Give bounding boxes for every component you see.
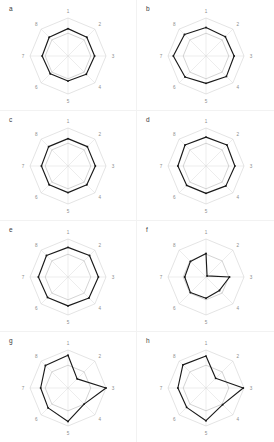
radar-data-point-6: [184, 76, 186, 78]
axis-label-8: 8: [35, 243, 38, 248]
axis-label-6: 6: [172, 85, 175, 90]
axis-label-3: 3: [112, 164, 115, 169]
axis-label-5: 5: [67, 319, 70, 324]
radar-data-point-7: [37, 276, 39, 278]
radar-axis-spoke-8: [179, 139, 206, 166]
axis-label-2: 2: [236, 22, 239, 27]
radar-data-point-2: [224, 35, 226, 37]
axis-label-4: 4: [236, 196, 239, 201]
radar-data-point-6: [47, 407, 49, 409]
radar-data-point-7: [176, 165, 178, 167]
radar-data-point-3: [228, 276, 230, 278]
radar-data-point-1: [67, 138, 69, 140]
radar-data-point-1: [205, 136, 207, 138]
radar-series-data-h: [177, 356, 242, 421]
axis-label-5: 5: [204, 319, 207, 324]
radar-data-point-5: [67, 80, 69, 82]
radar-panel-c: c12345678: [0, 111, 137, 222]
radar-data-point-7: [183, 276, 185, 278]
axis-label-6: 6: [35, 85, 38, 90]
axis-label-1: 1: [204, 8, 207, 13]
radar-data-point-4: [86, 184, 88, 186]
axis-label-2: 2: [236, 354, 239, 359]
axis-label-6: 6: [172, 417, 175, 422]
axis-label-3: 3: [112, 53, 115, 58]
radar-data-point-5: [67, 192, 69, 194]
axis-label-7: 7: [159, 385, 162, 390]
radar-data-point-5: [67, 420, 69, 422]
radar-data-point-7: [172, 55, 174, 57]
radar-data-point-3: [105, 387, 107, 389]
radar-data-point-7: [41, 55, 43, 57]
radar-axis-spoke-2: [206, 250, 233, 277]
radar-data-point-3: [242, 387, 244, 389]
radar-axis-spoke-8: [179, 250, 206, 277]
axis-label-4: 4: [236, 306, 239, 311]
radar-axis-spoke-4: [68, 56, 95, 83]
axis-label-3: 3: [249, 274, 252, 279]
axis-label-4: 4: [236, 85, 239, 90]
radar-plot-d: 12345678: [147, 113, 265, 217]
axis-label-8: 8: [172, 132, 175, 137]
axis-label-3: 3: [249, 53, 252, 58]
radar-data-point-8: [184, 144, 186, 146]
axis-label-8: 8: [172, 22, 175, 27]
axis-label-7: 7: [22, 274, 25, 279]
radar-data-point-6: [185, 406, 187, 408]
radar-data-point-3: [233, 55, 235, 57]
axis-label-6: 6: [35, 306, 38, 311]
axis-label-4: 4: [236, 417, 239, 422]
axis-label-6: 6: [172, 196, 175, 201]
axis-label-7: 7: [159, 274, 162, 279]
axis-label-1: 1: [67, 340, 70, 345]
axis-label-4: 4: [99, 417, 102, 422]
radar-panel-e: e12345678: [0, 221, 137, 332]
radar-data-point-2: [86, 146, 88, 148]
axis-label-5: 5: [204, 98, 207, 103]
axis-label-6: 6: [35, 196, 38, 201]
radar-data-point-5: [67, 305, 69, 307]
axis-label-2: 2: [236, 243, 239, 248]
axis-label-8: 8: [172, 243, 175, 248]
axis-label-5: 5: [204, 430, 207, 435]
axis-label-2: 2: [99, 354, 102, 359]
axis-label-1: 1: [67, 8, 70, 13]
radar-data-point-1: [205, 26, 207, 28]
axis-label-7: 7: [22, 385, 25, 390]
radar-data-point-5: [205, 193, 207, 195]
axis-label-1: 1: [67, 229, 70, 234]
radar-data-point-2: [76, 378, 78, 380]
axis-label-4: 4: [99, 306, 102, 311]
radar-panel-b: b12345678: [137, 0, 274, 111]
radar-axis-spoke-6: [179, 166, 206, 193]
radar-data-point-2: [89, 254, 91, 256]
axis-label-1: 1: [67, 119, 70, 124]
axis-label-5: 5: [67, 98, 70, 103]
axis-label-6: 6: [172, 306, 175, 311]
radar-axis-spoke-8: [41, 29, 68, 56]
radar-data-point-1: [67, 27, 69, 29]
radar-axis-spoke-2: [68, 250, 95, 277]
axis-label-3: 3: [112, 274, 115, 279]
axis-label-1: 1: [204, 229, 207, 234]
radar-chart-grid: a12345678b12345678c12345678d12345678e123…: [0, 0, 274, 442]
radar-data-point-8: [48, 36, 50, 38]
radar-plot-c: 12345678: [9, 113, 127, 217]
radar-data-point-3: [233, 165, 235, 167]
radar-data-point-4: [224, 185, 226, 187]
axis-label-8: 8: [35, 354, 38, 359]
radar-data-point-8: [183, 33, 185, 35]
radar-axis-spoke-2: [68, 139, 95, 166]
radar-data-point-5: [205, 419, 207, 421]
radar-axis-spoke-4: [68, 166, 95, 193]
radar-data-point-7: [176, 387, 178, 389]
axis-label-6: 6: [35, 417, 38, 422]
radar-data-point-4: [221, 403, 223, 405]
radar-data-point-4: [83, 403, 85, 405]
axis-label-2: 2: [99, 132, 102, 137]
radar-data-point-6: [48, 184, 50, 186]
radar-data-point-7: [40, 165, 42, 167]
axis-label-2: 2: [99, 22, 102, 27]
axis-label-2: 2: [236, 132, 239, 137]
radar-data-point-5: [205, 82, 207, 84]
